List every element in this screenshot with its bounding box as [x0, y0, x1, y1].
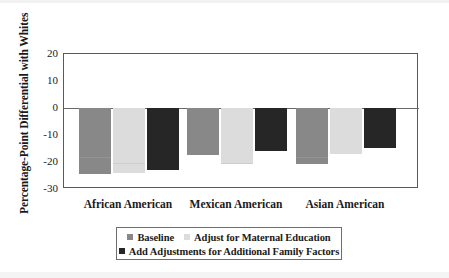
y-axis-tick-label: -30	[32, 183, 58, 193]
legend-label: Baseline	[137, 232, 174, 243]
legend-swatch-family-factors	[119, 248, 125, 254]
legend-swatch-baseline	[127, 234, 133, 240]
legend-item: Baseline	[127, 232, 174, 243]
x-axis-category-label: African American	[68, 198, 188, 210]
bar	[147, 108, 179, 170]
legend-item: Add Adjustments for Additional Family Fa…	[119, 246, 339, 257]
legend-label: Add Adjustments for Additional Family Fa…	[129, 246, 339, 257]
legend-label: Adjust for Maternal Education	[194, 232, 331, 243]
bar	[187, 108, 219, 155]
y-axis-tick-label: 0	[32, 102, 58, 112]
y-axis-tick-label: -20	[32, 156, 58, 166]
y-axis-tick-label: 10	[32, 75, 58, 85]
scan-artifact-line	[296, 157, 328, 158]
legend-item: Adjust for Maternal Education	[184, 232, 331, 243]
scan-artifact-line	[113, 163, 145, 164]
legend-swatch-maternal-education	[184, 234, 190, 240]
bar	[221, 108, 253, 164]
x-axis-category-label: Asian American	[285, 198, 405, 210]
scan-artifact-line	[221, 163, 253, 164]
bar	[330, 108, 362, 154]
legend-row-2: Add Adjustments for Additional Family Fa…	[117, 244, 341, 258]
bar	[296, 108, 328, 164]
scan-artifact-line	[79, 157, 111, 158]
y-axis-tick-label: -10	[32, 129, 58, 139]
legend-row-1: BaselineAdjust for Maternal Education	[117, 230, 341, 244]
bar	[255, 108, 287, 151]
y-axis-tick-label: 20	[32, 48, 58, 58]
bar	[79, 108, 111, 174]
x-axis-category-label: Mexican American	[176, 198, 296, 210]
scan-edge-top	[0, 0, 449, 3]
plot-area	[63, 53, 418, 188]
bar	[364, 108, 396, 148]
scan-edge-bottom	[0, 272, 449, 278]
chart-legend: BaselineAdjust for Maternal Education Ad…	[116, 227, 342, 260]
